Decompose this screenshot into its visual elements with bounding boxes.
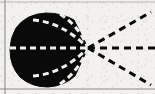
figure-container [0,0,155,94]
figure-drawing [0,0,155,94]
